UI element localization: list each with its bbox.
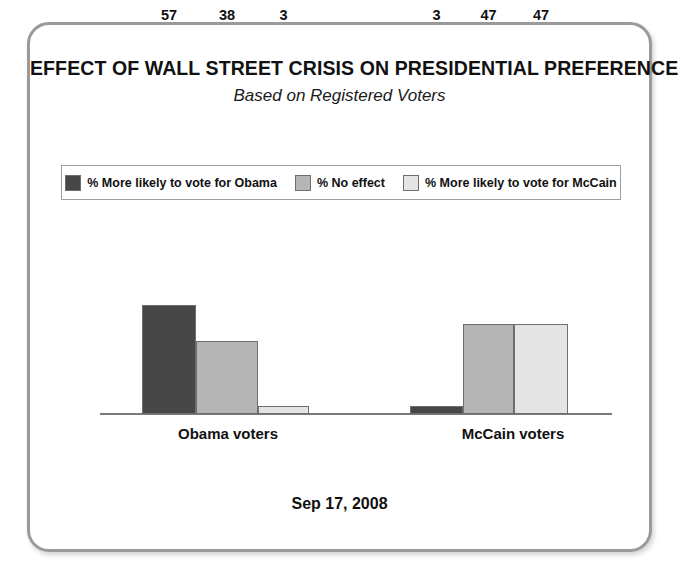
bar-obama-voters-series-0: 57: [142, 25, 196, 414]
bar-obama-voters-series-2: 3: [258, 25, 309, 414]
bar-rect: 57: [142, 305, 196, 414]
footer-date: Sep 17, 2008: [30, 495, 649, 513]
bar-value-label: 38: [196, 8, 258, 23]
bar-mccain-voters-series-2: 47: [514, 25, 568, 414]
category-label-mccain-voters: McCain voters: [413, 425, 613, 442]
chart-card: EFFECT OF WALL STREET CRISIS ON PRESIDEN…: [27, 22, 652, 552]
bar-rect: 3: [258, 406, 309, 414]
bar-rect: 38: [196, 341, 258, 414]
bar-mccain-voters-series-0: 3: [410, 25, 463, 414]
bar-value-label: 3: [410, 8, 463, 23]
bar-rect: 47: [514, 324, 568, 414]
bar-group-obama-voters: 57383: [142, 25, 309, 414]
category-label-obama-voters: Obama voters: [128, 425, 328, 442]
bar-rect: 3: [410, 406, 463, 414]
plot-area: 57383 34747 Obama voters McCain voters: [30, 25, 649, 549]
bar-rect: 47: [463, 324, 514, 414]
bar-group-mccain-voters: 34747: [410, 25, 568, 414]
bar-mccain-voters-series-1: 47: [463, 25, 514, 414]
bar-obama-voters-series-1: 38: [196, 25, 258, 414]
bar-value-label: 47: [463, 8, 514, 23]
bar-value-label: 47: [514, 8, 568, 23]
bar-value-label: 57: [142, 8, 196, 23]
bar-value-label: 3: [258, 8, 309, 23]
